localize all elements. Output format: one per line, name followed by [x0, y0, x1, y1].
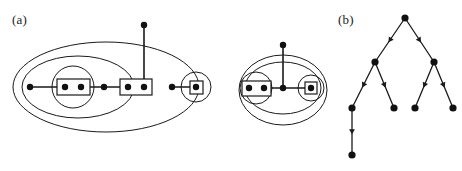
vertex-left-outer [27, 84, 33, 90]
vertex-mid-left [101, 84, 107, 90]
vertex-mid-center [280, 85, 286, 91]
vertex-pendant-top [141, 22, 147, 28]
tree-node-n5 [411, 104, 418, 111]
figure-container: (a) (b) [0, 0, 462, 171]
vertex-mid-boxed [308, 85, 314, 91]
vertex-mid-box-b [261, 85, 267, 91]
vertex-box-left-b [78, 84, 84, 90]
tree-node-n3 [348, 104, 355, 111]
figure-canvas [0, 0, 462, 171]
panel-b-tree [348, 14, 456, 158]
vertex-box-left-a [62, 84, 68, 90]
vertex-box-center-a [125, 84, 131, 90]
tree-node-n1 [371, 58, 378, 65]
vertex-right-free [169, 84, 175, 90]
tree-node-n4 [390, 104, 397, 111]
tree-node-n0 [401, 14, 408, 21]
arrowhead-n3-n7 [349, 129, 355, 134]
tree-node-n2 [430, 58, 437, 65]
tree-node-n7 [348, 151, 355, 158]
panel-a-diagram [13, 22, 327, 132]
vertex-mid-pendant-top [280, 42, 286, 48]
vertex-box-center-b [141, 84, 147, 90]
vertex-right-boxed [193, 84, 199, 90]
vertex-mid-box-a [246, 85, 252, 91]
tree-node-n6 [449, 104, 456, 111]
